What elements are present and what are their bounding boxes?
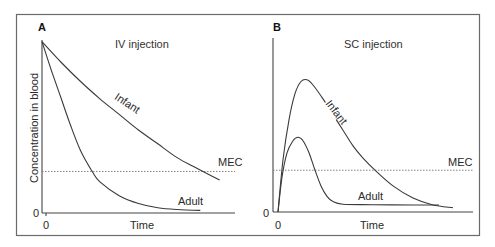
figure-frame	[17, 15, 480, 236]
panel-b-x-tick-0: 0	[275, 219, 281, 231]
panel-a-title: IV injection	[115, 38, 169, 50]
panel-a-y-tick-0: 0	[33, 207, 39, 219]
panel-b-letter: B	[273, 21, 281, 33]
panel-b-y-tick-0: 0	[263, 207, 269, 219]
panel-a-x-label: Time	[130, 219, 154, 231]
y-axis-label: Concentration in blood	[28, 73, 40, 183]
figure: A IV injection Concentration in blood 0 …	[0, 0, 495, 247]
panel-a-adult-label: Adult	[178, 195, 203, 207]
panel-a-letter: A	[38, 21, 46, 33]
panel-a-x-tick-0: 0	[43, 219, 49, 231]
panel-b-x-label: Time	[360, 219, 384, 231]
panel-b: B SC injection 0 0 Time MEC Infant Adult	[263, 21, 473, 231]
panel-b-mec-label: MEC	[448, 156, 473, 168]
panel-b-adult-label: Adult	[358, 190, 383, 202]
panel-b-title: SC injection	[344, 38, 403, 50]
panel-a: A IV injection Concentration in blood 0 …	[28, 21, 243, 231]
panel-a-mec-label: MEC	[218, 156, 243, 168]
